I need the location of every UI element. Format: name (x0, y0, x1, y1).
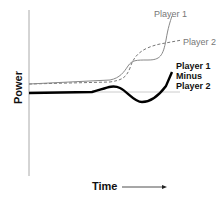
difference-label-line1: Player 1 (176, 61, 211, 71)
power-chart: Player 1 Player 2 Player 1 Minus Player … (0, 0, 219, 199)
player-2-line (29, 40, 182, 84)
player-1-line (29, 16, 172, 84)
player-1-label: Player 1 (154, 9, 187, 19)
player-2-label: Player 2 (183, 37, 216, 47)
difference-label-line3: Player 2 (176, 81, 211, 91)
difference-line (29, 72, 172, 102)
x-axis-label: Time (92, 180, 117, 192)
time-arrow-head-icon (162, 185, 167, 189)
difference-label-line2: Minus (176, 71, 202, 81)
y-axis-label: Power (12, 70, 24, 104)
